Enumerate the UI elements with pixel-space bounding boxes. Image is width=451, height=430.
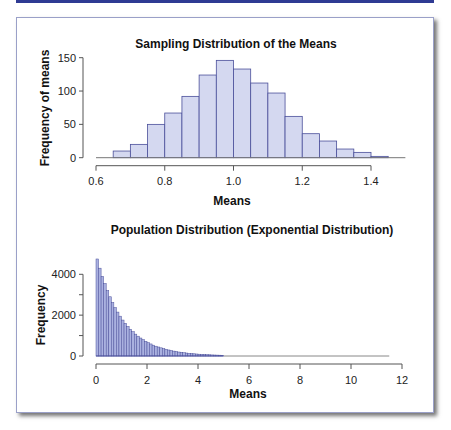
histogram-bar: [144, 341, 147, 356]
y-tick-label: 100: [58, 85, 76, 97]
y-axis-label: Frequency: [34, 284, 48, 345]
histogram-bar: [319, 141, 336, 158]
histogram-bar: [157, 347, 160, 356]
histogram-bar: [170, 351, 173, 356]
histogram-bar: [173, 351, 176, 356]
x-axis-label: Means: [229, 387, 267, 401]
histogram-bar: [101, 276, 104, 356]
histogram-bar: [165, 113, 182, 158]
x-tick-label: 6: [246, 374, 252, 386]
histogram-bar: [113, 151, 130, 158]
x-tick-label: 0: [93, 374, 99, 386]
histogram-bar: [302, 134, 319, 158]
histogram-bar: [354, 152, 371, 157]
histogram-bar: [148, 124, 165, 157]
x-tick-label: 0.6: [88, 175, 103, 187]
histogram-bar: [124, 323, 127, 356]
histogram-bar: [119, 316, 122, 356]
histogram-bar: [175, 352, 178, 356]
histogram-bar: [139, 338, 142, 356]
y-tick-label: 50: [64, 118, 76, 130]
histogram-bar: [142, 340, 145, 356]
population-distribution-chart: Population Distribution (Exponential Dis…: [34, 223, 408, 401]
y-tick-label: 2000: [52, 309, 76, 321]
histogram-bar: [130, 144, 147, 157]
histogram-bar: [180, 352, 183, 356]
x-tick-label: 1.0: [226, 175, 241, 187]
histogram-bar: [116, 312, 119, 356]
histogram-bar: [127, 326, 130, 356]
histogram-bar: [155, 346, 158, 356]
y-tick-label: 150: [58, 52, 76, 64]
histogram-bar: [216, 60, 233, 157]
histogram-bar: [251, 83, 268, 158]
x-tick-label: 0.8: [157, 175, 172, 187]
histogram-bar: [285, 116, 302, 157]
histogram-bar: [129, 329, 132, 356]
histogram-bar: [178, 352, 181, 356]
histogram-bar: [99, 268, 102, 356]
histogram-bar: [160, 348, 163, 356]
figure-panel: Sampling Distribution of the Means050100…: [16, 17, 434, 413]
histogram-bar: [114, 308, 117, 356]
histogram-bar: [106, 291, 109, 356]
histogram-bar: [134, 334, 137, 356]
chart-title: Population Distribution (Exponential Dis…: [111, 223, 394, 237]
x-tick-label: 8: [297, 374, 303, 386]
histogram-bar: [96, 259, 99, 356]
charts-svg: Sampling Distribution of the Means050100…: [17, 18, 433, 412]
histogram-bar: [165, 349, 168, 356]
x-tick-label: 2: [144, 374, 150, 386]
histogram-bar: [234, 69, 251, 158]
chart-title: Sampling Distribution of the Means: [135, 37, 337, 51]
histogram-bar: [167, 350, 170, 356]
histogram-bar: [132, 332, 135, 356]
histogram-bar: [111, 302, 114, 356]
histogram-bar: [337, 149, 354, 158]
histogram-bar: [199, 75, 216, 158]
x-axis-label: Means: [213, 194, 251, 208]
histogram-bar: [152, 345, 155, 356]
histogram-bar: [268, 93, 285, 158]
y-axis-label: Frequency of means: [38, 49, 52, 166]
histogram-bar: [147, 343, 150, 356]
x-tick-label: 10: [345, 374, 357, 386]
y-tick-label: 4000: [52, 268, 76, 280]
histogram-bar: [109, 297, 112, 356]
x-tick-label: 1.4: [363, 175, 378, 187]
y-tick-label: 0: [70, 152, 76, 164]
x-tick-label: 12: [396, 374, 408, 386]
header-bar: [16, 0, 434, 3]
y-tick-label: 0: [70, 350, 76, 362]
sampling-distribution-chart: Sampling Distribution of the Means050100…: [38, 37, 405, 208]
histogram-bar: [162, 349, 165, 356]
x-tick-label: 4: [195, 374, 201, 386]
histogram-bar: [150, 344, 153, 356]
histogram-bar: [122, 320, 125, 356]
histogram-bar: [104, 283, 107, 356]
x-tick-label: 1.2: [295, 175, 310, 187]
histogram-bar: [182, 96, 199, 157]
histogram-bar: [137, 336, 140, 356]
